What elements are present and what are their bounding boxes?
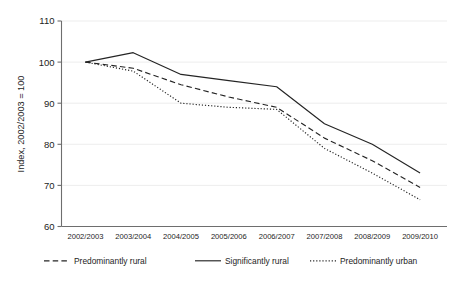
y-axis-label: Index, 2002/2003 = 100 bbox=[16, 76, 26, 173]
legend-label-significantly-rural: Significantly rural bbox=[225, 256, 289, 266]
x-tick-label: 2005/2006 bbox=[211, 232, 247, 241]
y-tick-label: 90 bbox=[44, 98, 55, 109]
y-tick-label: 70 bbox=[44, 180, 55, 191]
y-tick-label: 80 bbox=[44, 139, 55, 150]
x-tick-label: 2009/2010 bbox=[402, 232, 438, 241]
line-chart: 60708090100110 2002/20032003/20042004/20… bbox=[0, 0, 454, 287]
chart-canvas: 60708090100110 2002/20032003/20042004/20… bbox=[0, 0, 454, 287]
x-tick-label: 2008/2009 bbox=[354, 232, 390, 241]
y-tick-label: 60 bbox=[44, 221, 55, 232]
x-tick-label: 2003/2004 bbox=[115, 232, 151, 241]
x-tick-label: 2007/2008 bbox=[307, 232, 343, 241]
x-tick-label: 2006/2007 bbox=[259, 232, 295, 241]
legend-label-predominantly-rural: Predominantly rural bbox=[74, 256, 147, 266]
x-tick-label: 2004/2005 bbox=[163, 232, 199, 241]
chart-background bbox=[0, 0, 454, 287]
x-tick-label: 2002/2003 bbox=[67, 232, 103, 241]
legend-label-predominantly-urban: Predominantly urban bbox=[340, 256, 418, 266]
y-tick-label: 110 bbox=[39, 15, 54, 26]
chart-legend: Predominantly ruralSignificantly ruralPr… bbox=[44, 256, 418, 266]
y-tick-label: 100 bbox=[39, 57, 55, 68]
